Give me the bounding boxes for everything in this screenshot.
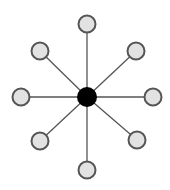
hub-layer — [77, 87, 97, 107]
node-bottom-right — [129, 132, 146, 149]
node-bottom-left — [32, 133, 49, 150]
node-top-right — [128, 43, 145, 60]
node-top — [79, 16, 96, 33]
star-network-diagram — [0, 0, 170, 190]
hub-node — [77, 87, 97, 107]
node-bottom — [79, 162, 96, 179]
node-left — [13, 89, 30, 106]
node-top-left — [32, 43, 49, 60]
node-right — [145, 89, 162, 106]
